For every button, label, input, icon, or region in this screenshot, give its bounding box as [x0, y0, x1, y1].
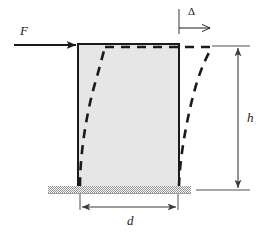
ground-support-hatch	[48, 186, 191, 194]
figure-container: F Δ h d	[0, 0, 270, 237]
force-label: F	[20, 24, 28, 37]
deflection-label: Δ	[188, 6, 195, 17]
height-label: h	[247, 111, 254, 124]
block-body	[78, 44, 179, 187]
deformed-right-edge	[179, 47, 212, 186]
block-deflection-diagram	[0, 0, 270, 237]
width-label: d	[127, 214, 134, 227]
